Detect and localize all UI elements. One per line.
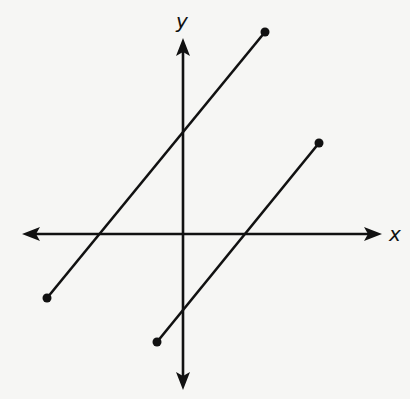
segment-lower-right — [153, 139, 324, 347]
endpoint-dot-icon — [315, 139, 324, 148]
segment-upper-left — [43, 28, 270, 303]
endpoint-dot-icon — [261, 28, 270, 37]
diagram-canvas: y x — [0, 0, 410, 399]
endpoint-dot-icon — [153, 338, 162, 347]
y-axis-label: y — [175, 9, 189, 33]
coordinate-plane-diagram: y x — [0, 0, 410, 399]
y-axis — [176, 38, 190, 390]
endpoint-dot-icon — [43, 294, 52, 303]
x-axis — [22, 227, 382, 241]
x-axis-label: x — [388, 222, 401, 246]
